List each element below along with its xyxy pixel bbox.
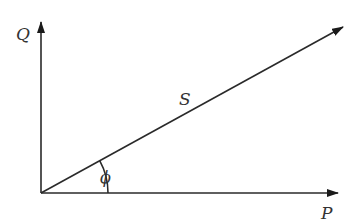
p-axis-label: P [320,203,333,223]
power-triangle-diagram: Q P S ϕ [0,0,356,223]
s-vector-label: S [179,89,191,109]
s-vector-arrow [41,27,343,193]
angle-phi-label: ϕ [100,168,111,187]
q-axis-label: Q [16,24,30,44]
diagram-svg: Q P S ϕ [0,0,356,223]
